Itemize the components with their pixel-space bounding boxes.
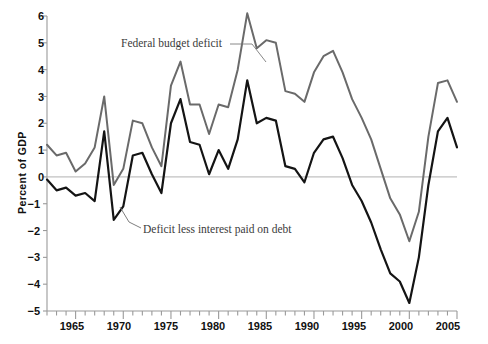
axis-group	[43, 16, 457, 319]
y-tick-label-0: 0	[18, 171, 44, 183]
y-tick-label-neg5: −5	[14, 305, 40, 317]
y-tick-marks	[43, 16, 47, 311]
x-tick-marks	[47, 311, 457, 319]
x-tick-label-2000: 2000	[378, 320, 424, 332]
y-tick-label-2: 2	[18, 117, 44, 129]
chart-plot-area	[0, 0, 488, 344]
chart-figure: Percent of GDP 6 5 4 3 2 1 0 −1 −2 −3 −4…	[0, 0, 488, 344]
x-tick-label-2005: 2005	[425, 320, 471, 332]
y-tick-label-4: 4	[18, 64, 44, 76]
x-tick-label-1975: 1975	[143, 320, 189, 332]
series-line-federal-budget-deficit	[47, 13, 457, 241]
y-tick-label-5: 5	[18, 37, 44, 49]
y-tick-label-neg1: −1	[14, 198, 40, 210]
leader-line-deficit-less-interest	[120, 207, 141, 228]
annotation-deficit-less-interest: Deficit less interest paid on debt	[143, 223, 292, 235]
x-tick-label-1970: 1970	[96, 320, 142, 332]
annotation-federal-budget-deficit: Federal budget deficit	[121, 37, 222, 49]
series-group	[47, 13, 457, 303]
annotation-leader-lines	[120, 44, 266, 228]
x-tick-label-1990: 1990	[284, 320, 330, 332]
series-line-deficit-less-interest	[47, 80, 457, 303]
y-tick-label-6: 6	[18, 10, 44, 22]
y-tick-label-neg3: −3	[14, 251, 40, 263]
y-tick-label-1: 1	[18, 144, 44, 156]
y-tick-label-neg2: −2	[14, 225, 40, 237]
x-tick-label-1980: 1980	[190, 320, 236, 332]
leader-line-federal-budget-deficit	[230, 44, 266, 62]
y-tick-label-3: 3	[18, 91, 44, 103]
x-tick-label-1985: 1985	[237, 320, 283, 332]
y-tick-label-neg4: −4	[14, 278, 40, 290]
x-tick-label-1995: 1995	[331, 320, 377, 332]
x-tick-label-1965: 1965	[49, 320, 95, 332]
